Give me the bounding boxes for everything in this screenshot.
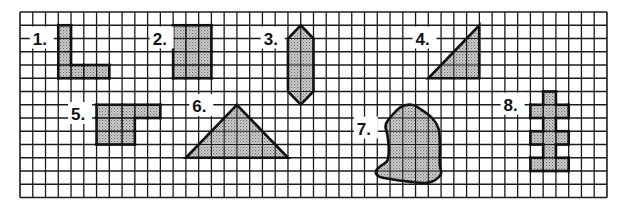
shape-cell — [109, 105, 122, 118]
shape-cell — [148, 105, 161, 118]
shape-cell — [186, 52, 199, 65]
shape-cell — [199, 52, 212, 65]
shape-cell — [109, 118, 122, 131]
shape-label-7: 7. — [354, 117, 378, 139]
shape-label-5: 5. — [68, 102, 92, 124]
shape-number-label: 5. — [71, 105, 85, 124]
shape-cell — [122, 118, 135, 131]
shape-cell — [199, 39, 212, 52]
grid-shapes-figure: 1.2.3.4.5.6.7.8. — [0, 0, 626, 207]
shape-cell — [543, 131, 556, 144]
shape-cell — [556, 105, 569, 118]
shape-label-2: 2. — [150, 27, 174, 49]
shape-cell — [186, 39, 199, 52]
shape-label-6: 6. — [189, 94, 213, 116]
shape-cell — [97, 65, 110, 78]
shape-cell — [84, 65, 97, 78]
shape-cell — [186, 65, 199, 78]
shape-cell — [173, 39, 186, 52]
shape-cell — [199, 25, 212, 38]
shape-cell — [556, 131, 569, 144]
shape-cell — [186, 25, 199, 38]
shape-cell — [530, 158, 543, 171]
shape-cell — [58, 39, 71, 52]
shape-cell — [556, 158, 569, 171]
shape-number-label: 2. — [153, 30, 167, 49]
shape-cell — [58, 52, 71, 65]
shape-cell — [135, 105, 148, 118]
shape-5 — [97, 105, 161, 145]
shape-2 — [173, 25, 211, 78]
shape-cell — [530, 105, 543, 118]
shape-cell — [543, 118, 556, 131]
shape-cell — [543, 145, 556, 158]
shape-label-1: 1. — [30, 27, 54, 49]
shape-number-label: 3. — [264, 30, 278, 49]
shape-cell — [199, 65, 212, 78]
shape-cell — [58, 65, 71, 78]
shape-cell — [173, 65, 186, 78]
shape-number-label: 6. — [192, 97, 206, 116]
shape-cell — [97, 131, 110, 144]
shape-number-label: 7. — [357, 120, 371, 139]
shape-number-label: 1. — [33, 30, 47, 49]
shape-cell — [543, 92, 556, 105]
shape-label-4: 4. — [413, 27, 437, 49]
shape-cell — [173, 52, 186, 65]
shape-cell — [97, 118, 110, 131]
shape-cell — [122, 131, 135, 144]
shape-cell — [543, 158, 556, 171]
shape-cell — [530, 131, 543, 144]
shape-cell — [173, 25, 186, 38]
shape-number-label: 4. — [416, 30, 430, 49]
shape-8 — [530, 92, 568, 172]
shape-number-label: 8. — [504, 96, 518, 115]
shape-label-8: 8. — [501, 93, 525, 115]
shape-cell — [58, 25, 71, 38]
shape-label-3: 3. — [261, 27, 285, 49]
shape-cell — [109, 131, 122, 144]
shape-cell — [97, 105, 110, 118]
shape-cell — [122, 105, 135, 118]
shape-cell — [543, 105, 556, 118]
shape-cell — [71, 65, 84, 78]
